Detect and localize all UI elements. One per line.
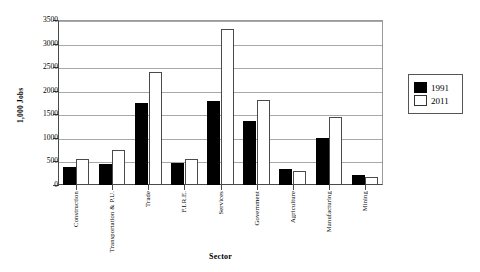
x-axis-title: Sector — [58, 252, 383, 261]
category-label: Government — [253, 191, 261, 225]
gridline — [59, 21, 382, 22]
x-tick-mark — [257, 185, 258, 190]
legend-label: 2011 — [431, 96, 449, 106]
category-label: F.I.R.E. — [180, 191, 188, 213]
legend-swatch-1991-icon — [414, 82, 427, 93]
category-labels: ConstructionTransportation & P.U.TradeF.… — [58, 191, 383, 247]
x-tick-mark — [365, 185, 366, 190]
x-tick-mark — [148, 185, 149, 190]
x-tick-mark — [293, 185, 294, 190]
y-tick-label: 2000 — [18, 87, 58, 95]
x-tick-mark — [184, 185, 185, 190]
gridline — [59, 139, 382, 140]
y-axis-ticks: 0500100015002000250030003500 — [0, 20, 58, 185]
gridline — [59, 45, 382, 46]
legend-label: 1991 — [431, 83, 449, 93]
x-tick-mark — [221, 185, 222, 190]
category-label: Mining — [361, 191, 369, 211]
x-tick-mark — [112, 185, 113, 190]
category-label: Construction — [72, 191, 80, 227]
x-tick-mark — [76, 185, 77, 190]
y-tick-label: 3500 — [18, 16, 58, 24]
category-label: Trade — [144, 191, 152, 207]
category-label: Services — [217, 191, 225, 215]
legend-swatch-2011-icon — [414, 95, 427, 106]
bar-chart: 1,000 Jobs 0500100015002000250030003500 … — [0, 0, 480, 272]
gridline — [59, 68, 382, 69]
gridline — [59, 162, 382, 163]
y-tick-label: 1500 — [18, 110, 58, 118]
category-label: Agriculture — [289, 191, 297, 223]
gridline — [59, 92, 382, 93]
category-label: Transportation & P.U. — [108, 191, 116, 252]
y-tick-label: 500 — [18, 157, 58, 165]
category-label: Manufacturing — [325, 191, 333, 232]
legend-item: 1991 — [414, 82, 457, 93]
y-tick-label: 1000 — [18, 134, 58, 142]
y-tick-label: 2500 — [18, 63, 58, 71]
legend-item: 2011 — [414, 95, 457, 106]
chart-legend: 1991 2011 — [408, 74, 463, 114]
gridline — [59, 115, 382, 116]
x-tick-mark — [329, 185, 330, 190]
y-tick-label: 3000 — [18, 40, 58, 48]
plot-area — [58, 20, 383, 185]
y-tick-label: 0 — [18, 181, 58, 189]
